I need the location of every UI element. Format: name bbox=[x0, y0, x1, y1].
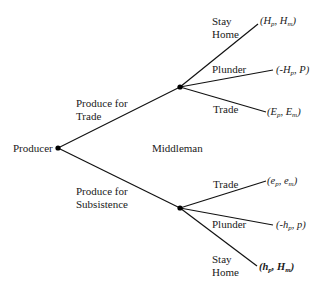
middleman-node-upper bbox=[177, 84, 182, 89]
move-produce-for-subsistence: Produce for Subsistence bbox=[76, 185, 128, 211]
upper-stay-home-label: Stay Home bbox=[212, 15, 239, 41]
producer-label: Producer bbox=[13, 142, 53, 155]
payoff-lower-trade: (ep, em) bbox=[267, 175, 297, 188]
lower-trade-label: Trade bbox=[213, 178, 238, 191]
lower-plunder-label: Plunder bbox=[212, 218, 246, 231]
middleman-label: Middleman bbox=[152, 142, 203, 155]
payoff-upper-plunder: (-Hp, P) bbox=[276, 64, 309, 77]
payoff-lower-stay-home: (hp, Hm) bbox=[259, 261, 294, 274]
upper-plunder-label: Plunder bbox=[212, 63, 246, 76]
producer-node bbox=[55, 145, 60, 150]
move-produce-for-trade: Produce for Trade bbox=[76, 97, 128, 123]
upper-trade-label: Trade bbox=[213, 103, 238, 116]
payoff-lower-plunder: (-hp, p) bbox=[276, 219, 306, 232]
payoff-upper-trade: (Ep, Em) bbox=[267, 106, 301, 119]
payoff-upper-stay-home: (Hp, Hm) bbox=[260, 15, 296, 28]
middleman-node-lower bbox=[177, 205, 182, 210]
lower-stay-home-label: Stay Home bbox=[212, 253, 239, 279]
